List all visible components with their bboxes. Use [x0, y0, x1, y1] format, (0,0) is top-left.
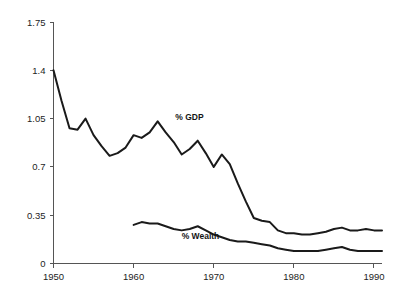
x-tick-group: 19501960197019801990	[43, 264, 385, 282]
series-annotation-gdp: % GDP	[175, 112, 204, 122]
chart-container: 1.751.41.050.70.350 19501960197019801990…	[0, 0, 400, 298]
x-tick-label: 1990	[363, 271, 384, 282]
y-tick-label: 0.7	[32, 161, 45, 172]
series-line-gdp	[54, 70, 383, 234]
series-annotation-wealth: % Wealth	[182, 231, 220, 241]
series-group	[54, 70, 383, 251]
x-tick-label: 1950	[43, 271, 64, 282]
x-tick-label: 1960	[123, 271, 144, 282]
x-tick-label: 1970	[203, 271, 224, 282]
y-axis: 1.751.41.050.70.350	[27, 17, 54, 270]
x-axis: 19501960197019801990	[43, 264, 385, 282]
y-tick-group: 1.751.41.050.70.350	[27, 17, 54, 270]
x-tick-label: 1980	[283, 271, 304, 282]
y-tick-label: 0.35	[27, 210, 46, 221]
y-tick-label: 1.75	[27, 17, 46, 28]
annotation-group: % GDP% Wealth	[175, 112, 219, 241]
y-tick-label: 0	[40, 258, 45, 269]
y-tick-label: 1.05	[27, 113, 46, 124]
line-chart: 1.751.41.050.70.350 19501960197019801990…	[0, 0, 400, 298]
series-line-wealth	[134, 222, 382, 251]
y-tick-label: 1.4	[32, 65, 45, 76]
